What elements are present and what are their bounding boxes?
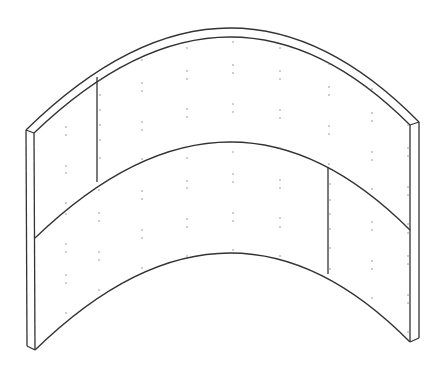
left-bottom-cap bbox=[27, 346, 35, 350]
curved-wall-drawing bbox=[0, 0, 446, 368]
left-outer-edge bbox=[26, 130, 27, 346]
left-inner-edge bbox=[34, 133, 35, 350]
drawing-canvas bbox=[0, 0, 446, 368]
inner-top-arc bbox=[34, 37, 410, 133]
middle-seam-arc bbox=[35, 142, 410, 238]
outer-top-arc bbox=[26, 28, 419, 130]
fastener-dots bbox=[65, 41, 408, 332]
bottom-arc bbox=[35, 253, 410, 350]
top-right-cap bbox=[410, 122, 419, 125]
right-bottom-cap bbox=[410, 338, 419, 342]
top-left-cap bbox=[26, 130, 34, 133]
